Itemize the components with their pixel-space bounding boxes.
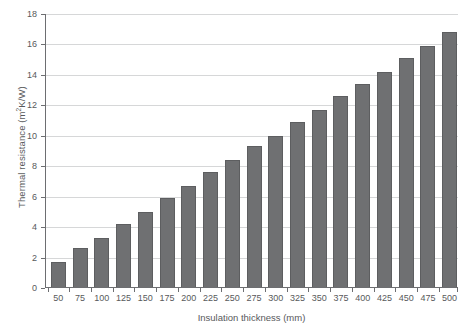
x-tick-mark	[156, 288, 157, 292]
plot-frame	[45, 14, 458, 288]
plot-area: 024681012141618 507510012515017520022525…	[45, 14, 458, 288]
x-tick-mark	[265, 288, 266, 292]
y-tick-label: 8	[0, 161, 37, 171]
x-tick-mark	[134, 288, 135, 292]
x-tick-mark	[352, 288, 353, 292]
y-tick-mark	[41, 288, 45, 289]
bar-chart: Thermal resistance (m2K/W) 0246810121416…	[0, 0, 467, 335]
x-tick-label: 500	[435, 293, 465, 303]
y-tick-label: 0	[0, 283, 37, 293]
x-tick-mark	[243, 288, 244, 292]
x-tick-mark	[48, 288, 49, 292]
x-tick-mark	[417, 288, 418, 292]
x-tick-mark	[330, 288, 331, 292]
y-tick-label: 6	[0, 192, 37, 202]
x-tick-mark	[178, 288, 179, 292]
y-tick-label: 16	[0, 39, 37, 49]
x-tick-mark	[287, 288, 288, 292]
x-tick-mark	[395, 288, 396, 292]
x-tick-mark	[200, 288, 201, 292]
x-tick-mark	[113, 288, 114, 292]
y-tick-label: 14	[0, 70, 37, 80]
x-tick-mark	[457, 288, 458, 292]
x-tick-mark	[308, 288, 309, 292]
y-tick-label: 2	[0, 253, 37, 263]
y-tick-label: 4	[0, 222, 37, 232]
x-tick-mark	[221, 288, 222, 292]
y-axis-title: Thermal resistance (m2K/W)	[15, 22, 27, 272]
x-tick-mark	[69, 288, 70, 292]
x-tick-mark	[439, 288, 440, 292]
x-tick-mark	[374, 288, 375, 292]
y-tick-label: 18	[0, 9, 37, 19]
x-tick-mark	[91, 288, 92, 292]
x-axis-title: Insulation thickness (mm)	[45, 312, 458, 323]
y-tick-label: 12	[0, 100, 37, 110]
y-tick-label: 10	[0, 131, 37, 141]
